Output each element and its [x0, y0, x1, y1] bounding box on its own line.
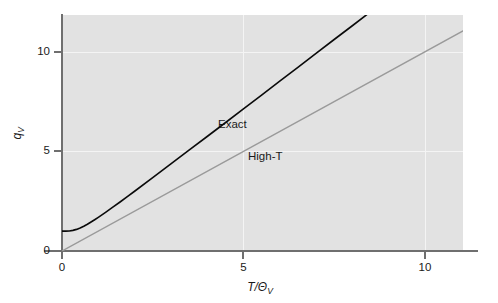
gridline-vertical: [425, 15, 426, 251]
y-axis-title-sub: V: [16, 127, 26, 133]
x-axis-tick-label: 5: [231, 261, 255, 273]
x-axis-title-main: T/Θ: [247, 280, 267, 294]
x-axis-tick: [424, 252, 426, 259]
x-axis-tick-label: 0: [50, 261, 74, 273]
y-axis-title-main: q: [10, 133, 24, 140]
y-axis-tick-label: 5: [26, 144, 50, 156]
plot-area: [62, 15, 463, 251]
series-label-exact: Exact: [218, 118, 247, 130]
y-axis-tick-label: 0: [26, 244, 50, 256]
gridline-vertical: [243, 15, 244, 251]
x-axis-tick: [61, 252, 63, 259]
y-axis-tick-label: 10: [26, 45, 50, 57]
y-axis-tick: [54, 51, 61, 53]
y-axis-title: qV: [10, 127, 26, 139]
x-axis-tick: [242, 252, 244, 259]
x-axis-line: [44, 250, 478, 252]
series-label-high-t: High-T: [248, 150, 283, 162]
chart-figure: qV T/ΘV Exact High-T 05100510: [0, 0, 498, 303]
x-axis-title: T/ΘV: [210, 280, 310, 296]
x-axis-title-sub: V: [267, 286, 273, 296]
y-axis-tick: [54, 150, 61, 152]
x-axis-tick-label: 10: [413, 261, 437, 273]
y-axis-tick: [54, 250, 61, 252]
gridline-horizontal: [62, 52, 463, 53]
y-axis-line: [61, 14, 63, 252]
